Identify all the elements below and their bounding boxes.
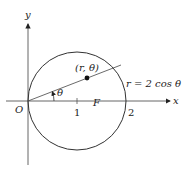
point-r-theta (85, 76, 90, 81)
tick-label-2: 2 (128, 107, 134, 118)
equation-label: r = 2 cos θ (126, 78, 181, 89)
origin-label: O (15, 104, 23, 115)
tick-label-1: 1 (74, 107, 80, 118)
x-axis-label: x (173, 95, 179, 106)
polar-diagram: y x O F θ (r, θ) r = 2 cos θ 1 2 (0, 0, 188, 172)
point-label: (r, θ) (75, 62, 99, 73)
angle-label: θ (57, 87, 63, 98)
focus-label: F (92, 97, 101, 108)
angle-arc (52, 92, 54, 101)
y-axis-label: y (24, 9, 31, 20)
